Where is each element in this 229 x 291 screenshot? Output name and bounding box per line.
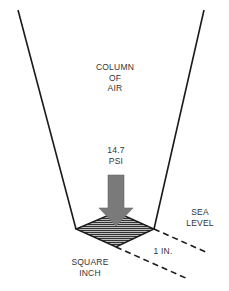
pressure-label: 14.7 PSI [96, 145, 136, 166]
sea-level-label: SEA LEVEL [180, 207, 220, 228]
square-inch-label: SQUARE INCH [65, 257, 115, 278]
column-of-air-diagram: COLUMN OF AIR 14.7 PSI SEA LEVEL 1 IN. S… [0, 0, 229, 291]
column-right-wall [154, 10, 204, 229]
column-left-wall [18, 10, 76, 229]
dimension-label: 1 IN. [148, 246, 178, 257]
column-of-air-label: COLUMN OF AIR [85, 62, 145, 94]
